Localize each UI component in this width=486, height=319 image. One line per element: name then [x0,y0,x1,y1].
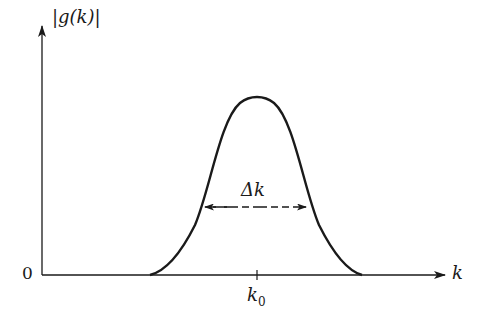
center-tick-label: k0 [247,286,266,308]
x-axis-label: k [452,264,463,282]
gaussian-wavepacket-diagram: |g(k)| 0 k k0 Δk [0,0,486,319]
width-label: Δk [241,181,265,199]
origin-label: 0 [22,265,33,282]
y-axis-label: |g(k)| [52,8,101,26]
diagram-canvas [0,0,486,319]
